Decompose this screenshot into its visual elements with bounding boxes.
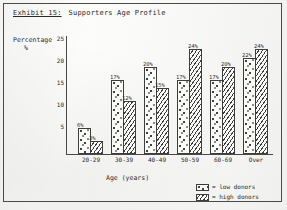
bar-value-label: 24% — [188, 43, 198, 49]
bar-value-label: 20% — [221, 61, 231, 67]
bar-high-donors[interactable]: 24% — [255, 49, 268, 154]
y-tick-label: 5 — [50, 124, 64, 130]
bar-high-donors[interactable]: 15% — [156, 88, 169, 154]
legend-label-high-donors: = high donors — [212, 192, 259, 202]
legend-swatch-dotted-icon — [196, 184, 209, 191]
bar-value-label: 12% — [122, 95, 132, 101]
exhibit-heading: Exhibit 15:Supporters Age Profile — [13, 9, 166, 17]
bar-value-label: 3% — [89, 135, 96, 141]
bar-value-label: 24% — [254, 43, 264, 49]
bar-value-label: 20% — [143, 61, 153, 67]
y-tick-label: 25 — [50, 36, 64, 42]
y-axis-tick-labels: 25 20 15 10 5 — [46, 36, 64, 155]
bar-value-label: 17% — [176, 74, 186, 80]
x-axis-title: Age (years) — [106, 174, 149, 182]
legend-item-high-donors: = high donors — [196, 192, 259, 202]
chart-legend: = low donors = high donors — [196, 182, 259, 202]
exhibit-label: Exhibit 15: — [13, 9, 62, 17]
bar-high-donors[interactable]: 3% — [90, 141, 103, 154]
legend-swatch-hatched-icon — [196, 194, 209, 201]
exhibit-title: Supporters Age Profile — [69, 9, 166, 17]
bar-value-label: 22% — [242, 52, 252, 58]
bar-value-label: 17% — [209, 74, 219, 80]
bar-value-label: 15% — [155, 82, 165, 88]
scanned-page: Exhibit 15:Supporters Age Profile Percen… — [0, 0, 287, 210]
y-tick-label: 15 — [50, 80, 64, 86]
legend-label-low-donors: = low donors — [212, 182, 255, 192]
x-axis-label-over: Over — [237, 156, 275, 163]
bar-value-label: 6% — [77, 122, 84, 128]
bar-groups: 6% 3% 20-29 17% 12% 30-39 20% 15% 40-49 — [66, 36, 273, 154]
x-axis-line — [66, 154, 273, 155]
bar-value-label: 17% — [110, 74, 120, 80]
y-tick-label: 20 — [50, 58, 64, 64]
y-tick-label: 10 — [50, 102, 64, 108]
legend-item-low-donors: = low donors — [196, 182, 259, 192]
y-axis-unit: % — [24, 44, 28, 52]
bar-high-donors[interactable]: 12% — [123, 101, 136, 154]
bar-high-donors[interactable]: 24% — [189, 49, 202, 154]
bar-high-donors[interactable]: 20% — [222, 67, 235, 154]
